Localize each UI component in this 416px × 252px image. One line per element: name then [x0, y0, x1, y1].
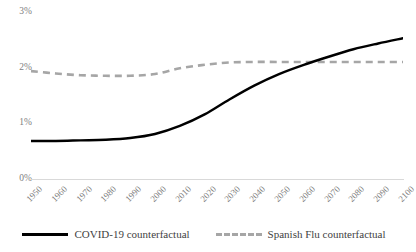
series-canvas — [31, 6, 403, 179]
legend-label-spanish-flu-counterfactual: Spanish Flu counterfactual — [268, 228, 386, 240]
y-axis-tick-3: 3% — [2, 6, 32, 16]
legend-item-covid-19-counterfactual[interactable]: COVID-19 counterfactual — [22, 228, 189, 240]
legend-item-spanish-flu-counterfactual[interactable]: Spanish Flu counterfactual — [216, 228, 386, 240]
y-axis-tick-1: 1% — [2, 117, 32, 127]
y-axis-tick-0: 0% — [2, 173, 32, 183]
legend-label-covid-19-counterfactual: COVID-19 counterfactual — [74, 228, 189, 240]
x-axis-baseline — [31, 179, 404, 180]
legend-swatch-dashed-line-icon — [216, 233, 262, 236]
legend-swatch-solid-line-icon — [22, 233, 68, 236]
series-line-spanish-flu-counterfactual — [31, 62, 403, 76]
x-axis-tick-labels: 1950196019701980199020002010202020302040… — [31, 181, 404, 215]
y-axis-tick-2: 2% — [2, 62, 32, 72]
plot-area — [31, 6, 403, 179]
chart-legend: COVID-19 counterfactual Spanish Flu coun… — [0, 228, 408, 240]
series-line-covid-19-counterfactual — [31, 38, 403, 141]
